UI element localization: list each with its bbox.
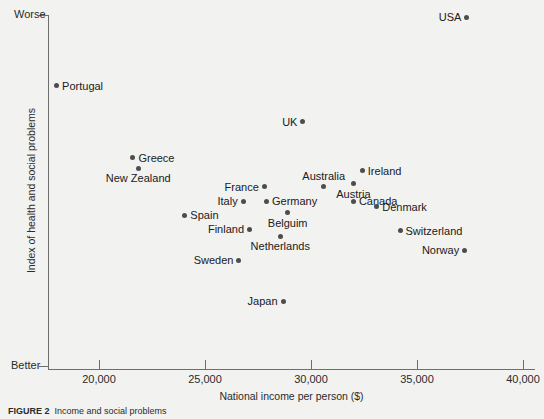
x-tick-label-25000: 25,000 [188, 374, 222, 385]
point-label-germany: Germany [272, 196, 317, 207]
point-label-spain: Spain [190, 210, 218, 221]
point-label-belguim: Belguim [268, 218, 308, 229]
x-tick-20000 [99, 360, 100, 369]
data-point-netherlands [278, 234, 283, 239]
x-tick-label-40000: 40,000 [506, 374, 540, 385]
point-label-denmark: Denmark [382, 201, 427, 212]
y-axis-line [48, 15, 49, 370]
data-point-norway [462, 248, 467, 253]
y-tick-label-better: Better [11, 360, 544, 371]
point-label-ireland: Ireland [368, 165, 402, 176]
data-point-japan [281, 299, 286, 304]
x-tick-25000 [205, 360, 206, 369]
data-point-denmark [374, 204, 379, 209]
data-point-france [262, 184, 267, 189]
figure-caption: FIGURE 2 Income and social problems [8, 406, 167, 416]
point-label-switzerland: Switzerland [406, 225, 463, 236]
point-label-portugal: Portugal [62, 80, 103, 91]
point-label-france: France [225, 181, 259, 192]
data-point-new-zealand [136, 166, 141, 171]
data-point-usa [464, 15, 469, 20]
data-point-portugal [54, 83, 59, 88]
data-point-austria [351, 181, 356, 186]
data-point-australia [321, 184, 326, 189]
data-point-ireland [360, 168, 365, 173]
data-point-germany [264, 199, 269, 204]
figure-caption-text: Income and social problems [55, 406, 167, 416]
data-point-greece [130, 155, 135, 160]
x-tick-30000 [311, 360, 312, 369]
point-label-netherlands: Netherlands [251, 241, 310, 252]
point-label-finland: Finland [208, 224, 244, 235]
x-tick-label-20000: 20,000 [82, 374, 116, 385]
x-tick-label-35000: 35,000 [400, 374, 434, 385]
data-point-canada [351, 199, 356, 204]
point-label-norway: Norway [422, 245, 459, 256]
point-label-new-zealand: New Zealand [106, 173, 171, 184]
data-point-italy [241, 199, 246, 204]
data-point-belguim [285, 210, 290, 215]
scatter-plot-figure: Worse Better Index of health and social … [0, 0, 544, 419]
data-point-spain [182, 213, 187, 218]
x-tick-label-30000: 30,000 [294, 374, 328, 385]
x-tick-40000 [523, 360, 524, 369]
point-label-sweden: Sweden [194, 255, 234, 266]
point-label-italy: Italy [217, 196, 237, 207]
data-point-uk [300, 119, 305, 124]
data-point-sweden [236, 258, 241, 263]
x-axis-title: National income per person ($) [48, 391, 535, 402]
point-label-usa: USA [439, 12, 462, 23]
data-point-switzerland [398, 228, 403, 233]
point-label-australia: Australia [302, 171, 345, 182]
point-label-uk: UK [282, 116, 297, 127]
figure-caption-prefix: FIGURE 2 [8, 406, 50, 416]
x-tick-35000 [417, 360, 418, 369]
point-label-japan: Japan [248, 296, 278, 307]
y-axis-title: Index of health and social problems [26, 76, 37, 306]
point-label-greece: Greece [138, 152, 174, 163]
data-point-finland [247, 227, 252, 232]
